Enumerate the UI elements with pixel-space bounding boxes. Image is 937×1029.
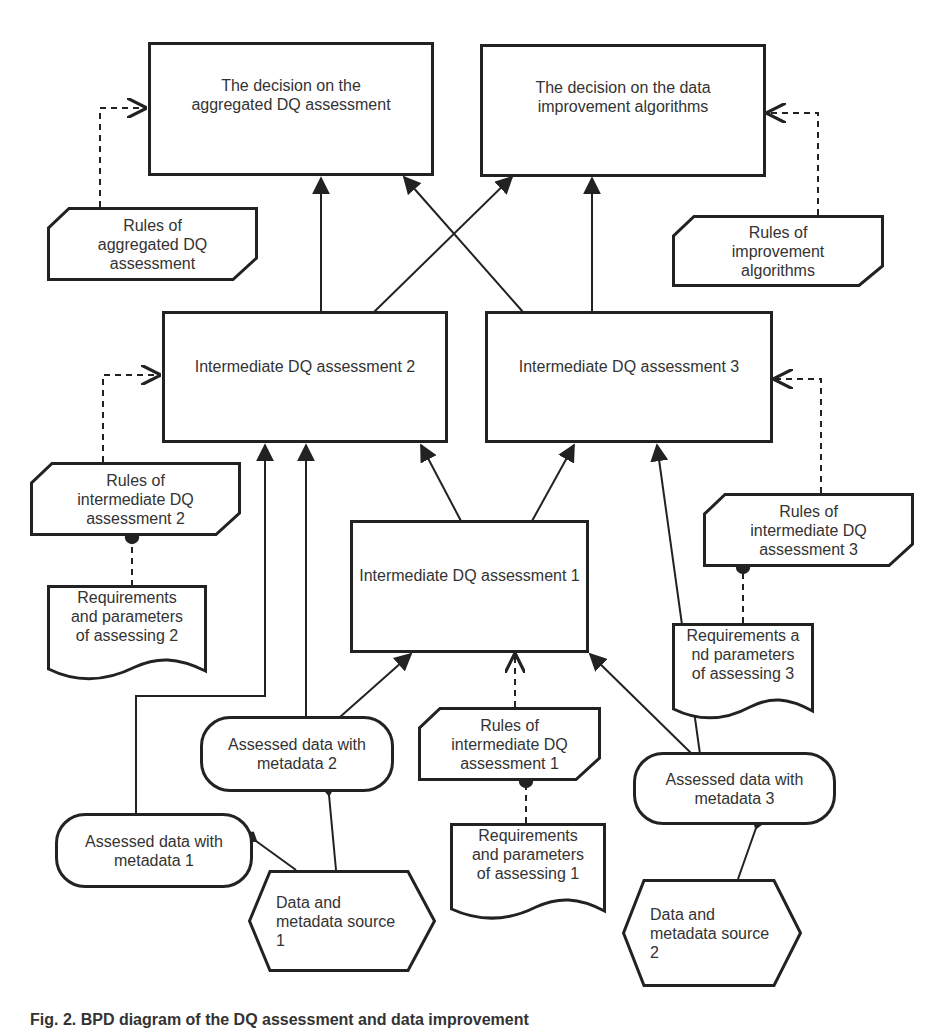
edge-rules-int3-to-int3 — [775, 379, 821, 493]
intermediate-3-label: Intermediate DQ assessment 3 — [519, 357, 740, 376]
rules-improvement-shape: Rules of improvement algorithms — [672, 215, 884, 287]
decision-aggregated-box: The decision on the aggregated DQ assess… — [148, 42, 434, 176]
edge-rules-aggregated-to-decision — [100, 108, 145, 207]
edge-int2-to-decision-improvement — [374, 177, 512, 312]
intermediate-2-box: Intermediate DQ assessment 2 — [162, 311, 448, 443]
edge-source1-to-assessed1 — [256, 841, 296, 870]
requirements-2-document: Requirements and parameters of assessing… — [47, 585, 207, 685]
edge-source1-to-assessed2 — [329, 795, 336, 870]
rules-improvement-label: Rules of improvement algorithms — [732, 223, 824, 280]
requirements-3-label: Requirements a nd parameters of assessin… — [687, 626, 800, 683]
intermediate-1-label: Intermediate DQ assessment 1 — [359, 566, 580, 585]
assessed-data-2-label: Assessed data with metadata 2 — [228, 735, 366, 773]
rules-aggregated-label: Rules of aggregated DQ assessment — [98, 216, 207, 273]
rules-intermediate-3-shape: Rules of intermediate DQ assessment 3 — [703, 493, 914, 567]
rules-intermediate-1-label: Rules of intermediate DQ assessment 1 — [451, 716, 568, 773]
requirements-1-document: Requirements and parameters of assessing… — [450, 823, 606, 925]
source-1-hexagon: Data and metadata source 1 — [248, 870, 436, 972]
rules-aggregated-shape: Rules of aggregated DQ assessment — [47, 207, 258, 281]
requirements-3-document: Requirements a nd parameters of assessin… — [672, 623, 814, 724]
edge-int3-to-decision-aggregated — [404, 177, 523, 312]
edge-rules-int2-to-int2 — [103, 375, 159, 462]
requirements-2-label: Requirements and parameters of assessing… — [71, 588, 183, 645]
edge-rules-improvement-to-decision — [768, 113, 818, 215]
edge-assessed2-to-int1 — [340, 654, 411, 717]
edge-int1-to-int3 — [532, 445, 574, 521]
intermediate-2-label: Intermediate DQ assessment 2 — [195, 357, 416, 376]
rules-intermediate-1-shape: Rules of intermediate DQ assessment 1 — [418, 707, 601, 781]
intermediate-3-box: Intermediate DQ assessment 3 — [485, 311, 773, 443]
assessed-data-1-label: Assessed data with metadata 1 — [85, 832, 223, 870]
source-2-hexagon: Data and metadata source 2 — [622, 879, 802, 987]
edge-int1-to-int2 — [421, 445, 461, 521]
assessed-data-2-pill: Assessed data with metadata 2 — [200, 716, 394, 792]
figure-caption: Fig. 2. BPD diagram of the DQ assessment… — [30, 1011, 529, 1029]
rules-intermediate-2-shape: Rules of intermediate DQ assessment 2 — [30, 462, 241, 536]
requirements-1-label: Requirements and parameters of assessing… — [472, 826, 584, 883]
edge-source2-to-assessed3 — [738, 828, 756, 879]
assessed-data-1-pill: Assessed data with metadata 1 — [55, 813, 253, 888]
assessed-data-3-pill: Assessed data with metadata 3 — [633, 752, 836, 825]
decision-aggregated-label: The decision on the aggregated DQ assess… — [191, 76, 390, 114]
decision-improvement-label: The decision on the data improvement alg… — [535, 78, 710, 116]
decision-improvement-box: The decision on the data improvement alg… — [480, 44, 766, 177]
rules-intermediate-2-label: Rules of intermediate DQ assessment 2 — [77, 471, 194, 528]
rules-intermediate-3-label: Rules of intermediate DQ assessment 3 — [750, 502, 867, 559]
source-2-label: Data and metadata source 2 — [650, 905, 769, 962]
source-1-label: Data and metadata source 1 — [276, 893, 395, 950]
assessed-data-3-label: Assessed data with metadata 3 — [666, 770, 804, 808]
intermediate-1-box: Intermediate DQ assessment 1 — [350, 520, 589, 653]
